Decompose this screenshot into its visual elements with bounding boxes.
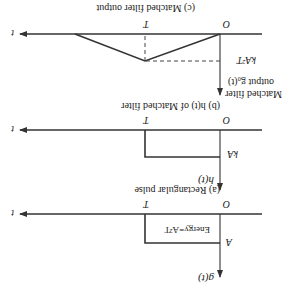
- origin-label-a: O: [223, 199, 230, 210]
- caption-b: (b) h(t) of Matched filter: [120, 100, 220, 112]
- output-label-line2: output g₀(t): [228, 76, 274, 88]
- amplitude-label-a: A: [225, 237, 233, 248]
- h-of-t-label: h(t): [198, 174, 214, 187]
- origin-label-c: O: [223, 19, 230, 30]
- caption-c: (c) Matched filter output: [96, 2, 195, 14]
- T-label-c: T: [142, 19, 149, 30]
- energy-label: Energy=A²T: [164, 225, 210, 235]
- g-of-t-label: g(t): [198, 272, 214, 285]
- t-label-c: t: [11, 28, 14, 39]
- amplitude-label-c: kA²T: [235, 55, 256, 66]
- origin-label-b: O: [223, 115, 230, 126]
- panel-a-rectangular-pulse: g(t) A O T t Energy=A²T (a) Rectangular …: [11, 184, 262, 285]
- triangular-output-shape: [75, 34, 220, 61]
- matched-filter-diagram: g(t) A O T t Energy=A²T (a) Rectangular …: [0, 0, 290, 291]
- panel-b-impulse-response: h(t) kA O T t (b) h(t) of Matched filter: [11, 100, 262, 190]
- amplitude-label-b: kA: [227, 149, 238, 160]
- t-label-a: t: [11, 208, 14, 219]
- T-label-a: T: [142, 199, 149, 210]
- t-label-b: t: [11, 124, 14, 135]
- impulse-response-shape: [145, 130, 220, 157]
- panel-c-matched-filter-output: Matched filter output g₀(t) kA²T O T t (…: [11, 2, 282, 100]
- output-label-line1: Matched filter: [224, 89, 282, 100]
- diagram-canvas: g(t) A O T t Energy=A²T (a) Rectangular …: [0, 0, 290, 291]
- T-label-b: T: [142, 115, 149, 126]
